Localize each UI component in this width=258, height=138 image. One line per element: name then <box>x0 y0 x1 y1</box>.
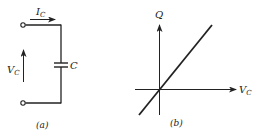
voltage-label: VC <box>7 64 20 77</box>
panel-a-caption: (a) <box>36 120 49 130</box>
figure-canvas: IC VC C (a) Q VC (b) <box>0 0 258 138</box>
x-axis-label: VC <box>239 84 252 97</box>
y-axis-label: Q <box>155 9 163 20</box>
capacitor-label: C <box>70 60 78 71</box>
bottom-terminal-icon <box>21 101 25 105</box>
current-label: IC <box>35 6 46 19</box>
panel-b-graph <box>135 25 236 115</box>
charge-voltage-line <box>139 25 212 115</box>
panel-a-circuit <box>21 20 68 106</box>
top-terminal-icon <box>21 23 25 27</box>
panel-b-caption: (b) <box>170 118 183 128</box>
